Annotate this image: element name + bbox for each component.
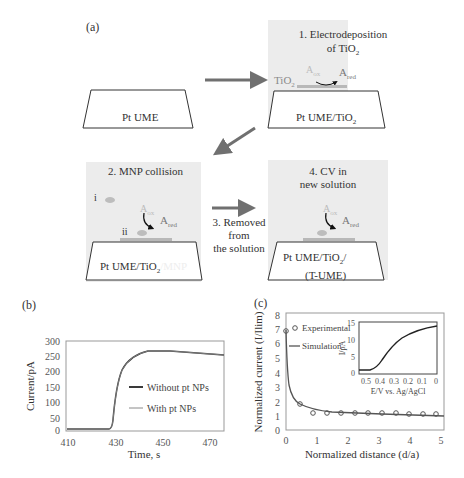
chart-c: 012345678 012345 Normalized distance (d/…	[232, 300, 464, 478]
svg-text:With pt NPs: With pt NPs	[147, 403, 196, 414]
step4-electrode-label: Pt UME/TiO2/ (T-UME)	[283, 251, 346, 282]
svg-text:Time, s: Time, s	[128, 448, 161, 460]
svg-text:3: 3	[275, 382, 280, 393]
step1-electrode-label: Pt UME/TiO2	[296, 111, 356, 126]
svg-text:410: 410	[61, 437, 76, 448]
svg-text:0: 0	[351, 369, 355, 378]
step2-red: Ared	[160, 214, 177, 229]
svg-text:1: 1	[315, 435, 320, 446]
svg-text:430: 430	[109, 437, 124, 448]
svg-text:450: 450	[156, 437, 171, 448]
svg-text:Normalized distance (d/a): Normalized distance (d/a)	[305, 448, 420, 461]
svg-text:50: 50	[50, 413, 60, 424]
svg-text:5: 5	[439, 435, 444, 446]
step2-title: 2. MNP collision	[108, 165, 183, 177]
svg-text:0.4: 0.4	[375, 377, 385, 386]
svg-text:300: 300	[45, 336, 60, 347]
svg-text:0: 0	[275, 425, 280, 436]
svg-text:10: 10	[347, 336, 355, 345]
svg-text:2: 2	[346, 435, 351, 446]
step4-red: Ared	[342, 214, 359, 229]
svg-text:5: 5	[275, 353, 280, 364]
svg-text:Current/pA: Current/pA	[24, 361, 36, 411]
svg-text:Without pt NPs: Without pt NPs	[147, 382, 209, 393]
svg-text:7: 7	[275, 324, 280, 335]
step3-label: 3. Removedfromthe solution	[204, 216, 274, 255]
tio2-layer-label: TiO2	[274, 74, 295, 89]
svg-text:0.1: 0.1	[417, 377, 427, 386]
svg-text:Experimental: Experimental	[302, 323, 351, 333]
svg-text:8: 8	[275, 310, 280, 321]
step1-red: Ared	[339, 66, 356, 81]
step2-electrode-label: Pt UME/TiO2/MNP	[100, 260, 187, 275]
svg-text:0: 0	[434, 377, 438, 386]
step1-ox: Aox	[306, 64, 320, 78]
marker-i: i	[94, 192, 97, 203]
svg-text:I/pA: I/pA	[338, 340, 347, 355]
svg-text:150: 150	[45, 382, 60, 393]
svg-text:200: 200	[45, 366, 60, 377]
step4-title: 4. CV innew solution	[268, 165, 388, 191]
svg-text:0: 0	[284, 435, 289, 446]
svg-text:0.2: 0.2	[403, 377, 413, 386]
svg-text:4: 4	[408, 435, 413, 446]
svg-text:6: 6	[275, 338, 280, 349]
svg-text:0.3: 0.3	[389, 377, 399, 386]
svg-text:4: 4	[275, 368, 280, 379]
svg-text:470: 470	[203, 437, 218, 448]
step0-electrode-label: Pt UME	[122, 111, 158, 123]
svg-text:1: 1	[275, 411, 280, 422]
svg-text:0: 0	[55, 425, 60, 436]
svg-text:250: 250	[45, 351, 60, 362]
step2-ox: Aox	[140, 203, 154, 217]
arrow-down-left-icon	[218, 128, 255, 152]
marker-ii: ii	[122, 226, 128, 237]
svg-text:2: 2	[275, 397, 280, 408]
panel-a: (a) Pt UME 1. El	[0, 0, 464, 290]
svg-text:100: 100	[45, 397, 60, 408]
svg-text:5: 5	[351, 353, 355, 362]
step1-title: 1. Electrodeposition of TiO2	[268, 27, 418, 60]
step4-ox: Aox	[323, 203, 337, 217]
svg-text:E/V vs. Ag/AgCl: E/V vs. Ag/AgCl	[371, 387, 427, 396]
svg-text:Normalized current (I/Ilim): Normalized current (I/Ilim)	[252, 311, 265, 432]
svg-text:15: 15	[347, 319, 355, 328]
chart-b: 050100150200250300 410430450470 Time, s …	[0, 300, 232, 478]
svg-text:3: 3	[377, 435, 382, 446]
svg-text:Simulation: Simulation	[302, 341, 342, 351]
svg-text:0.5: 0.5	[361, 377, 371, 386]
